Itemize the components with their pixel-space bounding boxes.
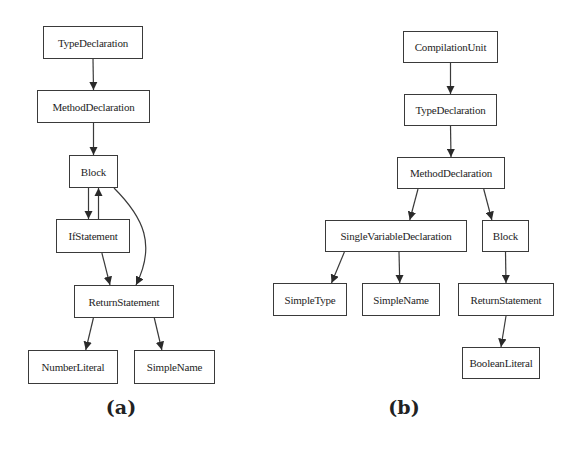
node-boolean-literal-b: BooleanLiteral [462,347,540,379]
edge-arrow [93,59,94,90]
node-label: SimpleType [284,294,335,306]
node-label: MethodDeclaration [410,167,492,179]
node-return-statement-a: ReturnStatement [74,285,174,318]
node-label: NumberLiteral [42,361,105,373]
node-number-literal-a: NumberLiteral [28,350,118,384]
node-simple-name-a: SimpleName [134,350,215,384]
node-label: ReturnStatement [89,296,160,308]
diagram-canvas: TypeDeclaration MethodDeclaration Block … [0,0,579,455]
node-type-declaration-a: TypeDeclaration [43,26,143,59]
node-label: SingleVariableDeclaration [340,230,451,242]
edge-arrow [451,126,452,157]
edge-arrow [154,318,162,350]
edge-arrow [410,189,418,220]
node-return-statement-b: ReturnStatement [458,283,554,316]
node-label: CompilationUnit [415,41,487,53]
node-label: Block [81,166,106,178]
node-if-statement-a: IfStatement [56,219,130,253]
node-block-a: Block [69,155,118,188]
node-single-variable-declaration-b: SingleVariableDeclaration [325,220,467,252]
node-block-b: Block [482,220,529,252]
node-label: SimpleName [147,361,202,373]
node-label: MethodDeclaration [52,101,134,113]
edge-arrow [399,252,400,283]
node-simple-name-b: SimpleName [362,283,440,316]
edge-arrow [506,252,507,283]
edge-arrow [86,318,94,350]
node-label: IfStatement [68,230,117,242]
node-label: TypeDeclaration [58,37,128,49]
node-method-declaration-a: MethodDeclaration [37,90,150,123]
edge-arrow [501,316,506,347]
node-method-declaration-b: MethodDeclaration [397,157,505,189]
node-simple-type-b: SimpleType [273,283,347,316]
edge-arrow [102,253,110,285]
caption-b: (b) [388,396,419,418]
node-label: ReturnStatement [471,294,542,306]
node-compilation-unit-b: CompilationUnit [403,31,498,63]
edge-arrow [484,189,492,220]
node-type-declaration-b: TypeDeclaration [404,94,497,126]
node-label: TypeDeclaration [415,104,485,116]
node-label: SimpleName [373,294,428,306]
node-label: Block [493,230,518,242]
caption-a: (a) [106,396,136,418]
node-label: BooleanLiteral [469,357,532,369]
edge-arrow [332,252,345,283]
